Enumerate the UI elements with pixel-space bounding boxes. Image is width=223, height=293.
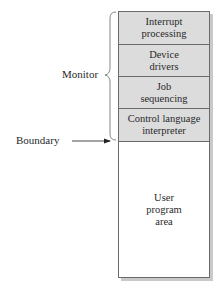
segment-text: Control language xyxy=(128,113,201,124)
boundary-label: Boundary xyxy=(16,134,59,146)
user-program-area: Userprogramarea xyxy=(119,142,209,277)
user-area-text: User xyxy=(154,192,174,203)
segment-device-drivers: Devicedrivers xyxy=(119,45,209,77)
segment-text: Job xyxy=(157,81,172,92)
segment-text: processing xyxy=(142,28,187,39)
segment-text: drivers xyxy=(149,61,178,72)
monitor-brace-icon xyxy=(105,12,116,140)
segment-text: Device xyxy=(149,49,179,60)
memory-layout: Interruptprocessing Devicedrivers Jobseq… xyxy=(118,11,210,278)
boundary-arrow-head-icon xyxy=(104,139,111,144)
segment-text: sequencing xyxy=(140,93,187,104)
user-area-text: program xyxy=(146,204,182,215)
segment-interrupt-processing: Interruptprocessing xyxy=(119,12,209,45)
segment-control-language-interpreter: Control languageinterpreter xyxy=(119,109,209,142)
segment-text: Interrupt xyxy=(146,16,183,27)
monitor-label: Monitor xyxy=(62,68,98,80)
segment-job-sequencing: Jobsequencing xyxy=(119,77,209,109)
user-area-text: area xyxy=(155,216,172,227)
segment-text: interpreter xyxy=(142,125,186,136)
